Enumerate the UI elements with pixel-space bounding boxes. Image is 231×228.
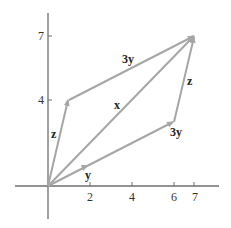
label-3y-upper: 3y [122,52,134,66]
y-tick-label-4: 4 [38,93,44,107]
x-axis-ticks: 2 4 6 7 [87,182,198,204]
x-tick-label-2: 2 [87,190,93,204]
x-tick-label-6: 6 [171,190,177,204]
vector-diagram: 2 4 6 7 4 7 z 3y x z 3y y [0,0,231,228]
y-axis-ticks: 4 7 [38,29,52,107]
label-z-left: z [51,127,57,141]
x-tick-label-4: 4 [129,190,135,204]
label-y: y [85,168,91,182]
y-tick-label-7: 7 [38,29,44,43]
vector-3y-upper [69,36,194,100]
vector-3y-lower [48,122,173,186]
vector-x [48,37,193,186]
label-3y-lower: 3y [170,125,182,139]
vector-z-left [48,100,68,186]
x-tick-label-7: 7 [192,190,198,204]
label-z-lower: z [187,74,193,88]
label-x: x [114,98,120,112]
